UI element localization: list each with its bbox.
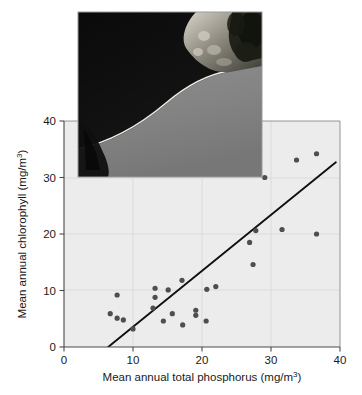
x-axis-title-tail: )	[298, 371, 302, 383]
data-point	[121, 317, 126, 322]
data-point	[204, 287, 209, 292]
x-tick-label-40: 40	[334, 354, 347, 366]
data-point	[130, 326, 135, 331]
y-tick-label-10: 10	[43, 285, 56, 297]
data-point	[150, 305, 155, 310]
x-tick-labels: 010203040	[61, 354, 347, 366]
y-axis-title-tail: )	[16, 149, 28, 153]
data-point	[152, 295, 157, 300]
plot-canvas: 010203040 010203040 Mean annual total ph…	[0, 0, 362, 395]
data-point	[166, 287, 171, 292]
inset-rock-a	[198, 31, 210, 41]
x-tick-label-20: 20	[196, 354, 209, 366]
y-tick-label-20: 20	[43, 228, 56, 240]
inset-photograph	[78, 12, 266, 177]
data-point	[115, 316, 120, 321]
data-point	[314, 231, 319, 236]
data-point	[193, 313, 198, 318]
data-point	[161, 318, 166, 323]
data-point	[193, 308, 198, 313]
scatter-plot-figure: 010203040 010203040 Mean annual total ph…	[0, 0, 362, 395]
data-point	[314, 151, 319, 156]
data-point	[170, 311, 175, 316]
data-point	[253, 228, 258, 233]
inset-rock-d	[216, 58, 232, 66]
data-point	[247, 240, 252, 245]
inset-rock-b	[207, 45, 221, 55]
y-tick-label-40: 40	[43, 115, 56, 127]
x-tick-label-0: 0	[61, 354, 67, 366]
data-point	[152, 286, 157, 291]
x-tick-label-10: 10	[127, 354, 140, 366]
y-axis-title: Mean annual chlorophyll (mg/m3)	[15, 149, 28, 318]
y-tick-labels: 010203040	[43, 115, 56, 353]
x-tick-label-30: 30	[265, 354, 278, 366]
y-axis-title-main: Mean annual chlorophyll (mg/m	[16, 158, 28, 318]
inset-tree-cluster-b	[227, 12, 245, 36]
x-axis-title-main: Mean annual total phosphorus (mg/m	[103, 371, 294, 383]
data-point	[294, 157, 299, 162]
inset-rock-c	[193, 48, 203, 56]
x-axis-title: Mean annual total phosphorus (mg/m3)	[103, 370, 302, 383]
data-point	[180, 322, 185, 327]
data-point	[250, 262, 255, 267]
y-tick-label-30: 30	[43, 172, 56, 184]
data-point	[204, 318, 209, 323]
inset-tree-cluster-c	[235, 42, 257, 62]
data-point	[279, 227, 284, 232]
data-point	[262, 175, 267, 180]
y-tick-label-0: 0	[50, 341, 56, 353]
data-point	[213, 284, 218, 289]
data-point	[115, 292, 120, 297]
data-point	[108, 311, 113, 316]
data-point	[179, 278, 184, 283]
